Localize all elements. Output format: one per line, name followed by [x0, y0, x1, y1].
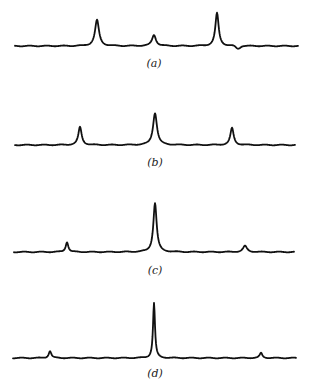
panel-label-b: (b) — [147, 156, 163, 169]
trace-d — [13, 303, 296, 358]
trace-c — [14, 203, 294, 252]
panel-label-d: (d) — [147, 367, 163, 380]
panel-label-c: (c) — [148, 264, 163, 277]
trace-a — [15, 13, 298, 49]
panel-label-a: (a) — [146, 57, 161, 70]
trace-b — [15, 113, 295, 145]
